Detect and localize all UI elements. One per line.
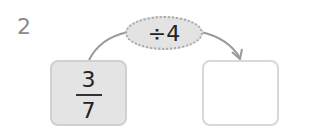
operation-oval: ÷4 (125, 16, 203, 50)
fraction-bar (76, 94, 102, 96)
denominator: 7 (82, 99, 96, 123)
input-box: 3 7 (50, 60, 127, 126)
numerator: 3 (82, 68, 96, 92)
fraction: 3 7 (52, 68, 125, 123)
answer-box[interactable] (202, 60, 279, 126)
